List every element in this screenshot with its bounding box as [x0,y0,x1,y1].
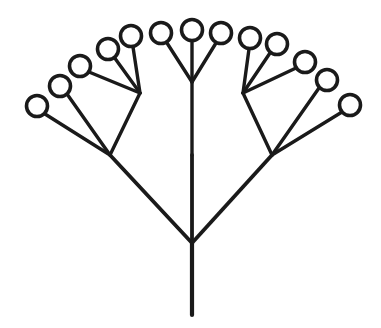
fractal-tree-diagram [0,0,381,328]
terminal-node-circle [340,95,361,116]
terminal-node-circle [267,34,288,55]
terminal-node-circle [182,20,203,41]
terminal-node-circle [70,56,91,77]
terminal-node-circle [50,76,71,97]
terminal-node-circle [211,23,232,44]
terminal-node-circle [151,23,172,44]
terminal-node-circle [240,28,261,49]
terminal-node-circle [121,26,142,47]
terminal-node-circle [317,70,338,91]
terminal-node-circle [27,96,48,117]
terminal-node-circle [295,52,316,73]
terminal-node-circle [98,39,119,60]
